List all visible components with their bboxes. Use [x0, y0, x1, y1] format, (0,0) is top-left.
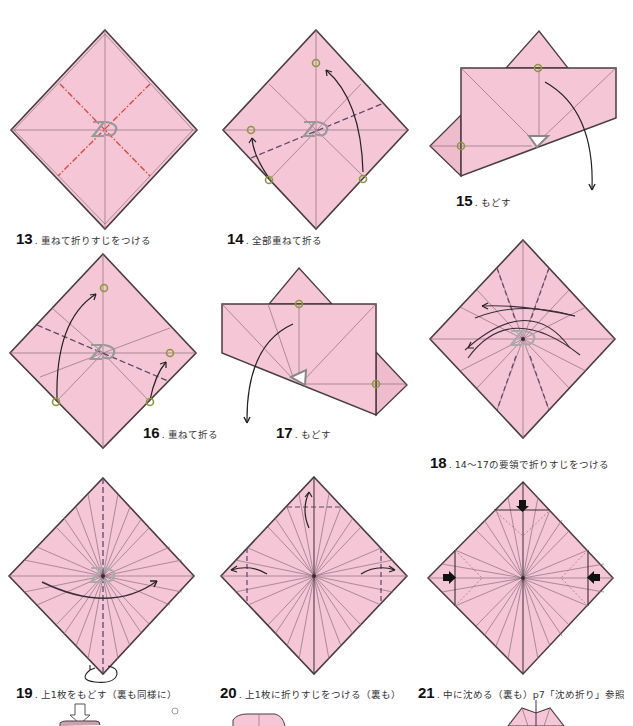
step-text: もどす — [301, 429, 331, 440]
step-21-diagram — [420, 470, 633, 685]
step-20-diagram — [211, 470, 422, 685]
step-14-caption: 14. 全部重ねて折る — [227, 232, 322, 248]
step-15-diagram — [420, 0, 633, 230]
step-24-diagram-partial — [500, 700, 580, 726]
step-13-caption: 13. 重ねて折りすじをつける — [16, 232, 151, 248]
step-text: 重ねて折りすじをつける — [41, 235, 151, 246]
step-number: 18 — [430, 454, 447, 471]
step-13-diagram — [0, 0, 211, 230]
step-number: 15 — [456, 192, 473, 209]
step-22-diagram-partial — [60, 703, 140, 726]
step-17-diagram — [211, 260, 422, 430]
step-number: 16 — [143, 424, 160, 441]
step-number: 13 — [16, 230, 33, 247]
step-number: 14 — [227, 230, 244, 247]
step-17-caption: 17. もどす — [276, 426, 331, 442]
step-19-diagram — [0, 470, 211, 685]
step-text: 14〜17の要領で折りすじをつける — [455, 459, 609, 470]
step-14-diagram — [211, 0, 422, 230]
step-23-diagram-partial — [165, 706, 295, 726]
step-text: 中に沈める（裏も）p7「沈め折り」参照 — [443, 689, 625, 700]
step-19-caption: 19. 上1枚をもどす（裏も同様に） — [16, 686, 177, 702]
step-20-caption: 20. 上1枚に折りすじをつける（裏も） — [220, 686, 401, 702]
step-text: 重ねて折る — [168, 429, 218, 440]
step-16-diagram — [0, 250, 211, 440]
step-16-caption: 16. 重ねて折る — [143, 426, 218, 442]
step-number: 21 — [418, 684, 435, 701]
step-number: 19 — [16, 684, 33, 701]
step-text: 上1枚をもどす（裏も同様に） — [41, 689, 177, 700]
step-15-caption: 15. もどす — [456, 194, 511, 210]
step-text: もどす — [481, 197, 511, 208]
step-number: 20 — [220, 684, 237, 701]
step-text: 全部重ねて折る — [252, 235, 322, 246]
step-text: 上1枚に折りすじをつける（裏も） — [245, 689, 401, 700]
step-18-diagram — [420, 230, 633, 450]
step-number: 17 — [276, 424, 293, 441]
